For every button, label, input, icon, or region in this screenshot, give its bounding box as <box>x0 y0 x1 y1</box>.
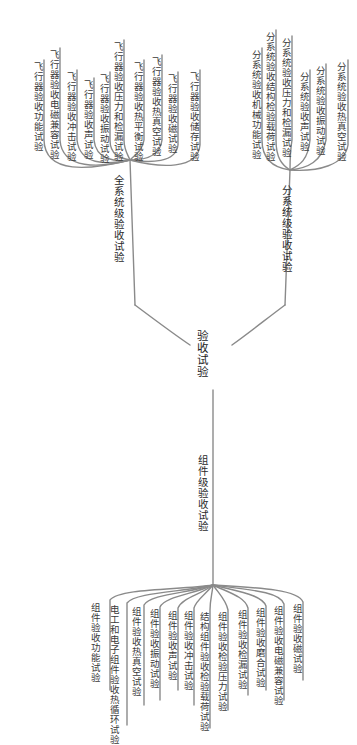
branch-component-label: 组件级验收试验 <box>196 455 207 532</box>
leaf-system-9: 飞行器验收储存试验 <box>189 72 200 162</box>
leaf-system-3: 飞行器验收声试验 <box>83 80 94 160</box>
leaf-component-2: 组件验收热真空试验 <box>131 607 142 697</box>
leaf-component-4: 组件验收声试验 <box>167 611 178 681</box>
branch-system-label: 全系统级验收试验 <box>112 175 123 263</box>
leaf-component-1: 电工和电子组件验收热循环试验 <box>109 605 120 745</box>
leaf-system-4: 飞行器验收振动试验 <box>99 74 110 164</box>
leaf-subsystem-1: 分系统验收结构检验载荷试验 <box>265 32 276 162</box>
leaf-component-8: 组件验收检漏试验 <box>237 610 248 690</box>
leaf-subsystem-4: 分系统验收振动试验 <box>315 66 326 156</box>
leaf-system-2: 飞行器验收冲击试验 <box>66 72 77 162</box>
leaf-subsystem-0: 分系统验收机械功能试验 <box>251 50 262 160</box>
leaf-component-0: 组件验收功能试验 <box>90 603 101 683</box>
leaf-subsystem-2: 分系统验收压力和检漏试验 <box>281 38 292 158</box>
leaf-system-5: 飞行器验收压力和检漏试验 <box>113 42 124 162</box>
root-node: 验收试验 <box>196 330 207 378</box>
leaf-component-9: 组件验收磨合试验 <box>255 608 266 688</box>
leaf-system-0: 飞行器验收功能试验 <box>33 62 44 152</box>
leaf-system-1: 飞行器验收电磁兼容试验 <box>49 50 60 160</box>
leaf-system-7: 飞行器验收热真空试验 <box>151 57 162 157</box>
leaf-subsystem-5: 分系统验收热真空试验 <box>336 62 347 162</box>
leaf-system-8: 飞行器验收磁试验 <box>167 74 178 154</box>
leaf-component-5: 组件验收冲击试验 <box>183 611 194 691</box>
leaf-subsystem-3: 分系统验收声试验 <box>299 72 310 152</box>
leaf-component-10: 组件验收电磁兼容试验 <box>273 606 284 706</box>
leaf-component-11: 组件验收磁试验 <box>292 604 303 674</box>
leaf-component-6: 结构组件验收检验载荷试验 <box>199 612 210 732</box>
leaf-system-6: 飞行器验收热平衡试验 <box>133 62 144 162</box>
leaf-component-3: 组件验收振动试验 <box>149 609 160 689</box>
branch-subsystem-label: 分系统级验收试验 <box>280 185 291 273</box>
leaf-component-7: 组件验收检验压力试验 <box>217 612 228 712</box>
